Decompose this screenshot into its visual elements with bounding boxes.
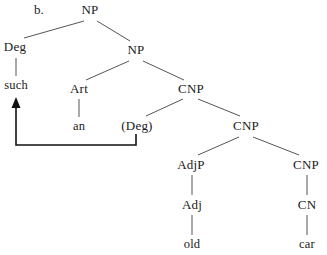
tree-node-deg: Deg xyxy=(4,40,26,53)
tree-node-cnp-1: CNP xyxy=(178,82,204,95)
tree-node-np-2: NP xyxy=(127,43,144,56)
branch-cnp-2-to-adjp xyxy=(198,137,239,155)
tree-node-deg-trace: (Deg) xyxy=(121,119,152,132)
branch-np-2-to-cnp-1 xyxy=(143,61,184,80)
movement-arrowhead-icon xyxy=(12,97,21,108)
tree-branches-svg xyxy=(0,0,327,255)
tree-node-adjp: AdjP xyxy=(177,158,205,171)
branch-lines-group xyxy=(16,21,307,235)
branch-cnp-2-to-cnp-3 xyxy=(253,137,299,155)
tree-node-cnp-3: CNP xyxy=(293,158,319,171)
figure-letter-label: b. xyxy=(34,3,44,16)
tree-node-such: such xyxy=(4,79,28,92)
syntax-tree-figure: b. NPDegNPsuchArtCNPan(Deg)CNPAdjPCNPAdj… xyxy=(0,0,327,255)
branch-np-2-to-art xyxy=(86,61,129,80)
branch-cnp-1-to-deg-trace xyxy=(146,99,183,116)
tree-node-old: old xyxy=(184,238,201,251)
branch-cnp-1-to-cnp-2 xyxy=(198,99,240,116)
tree-node-adj: Adj xyxy=(182,198,202,211)
tree-node-art: Art xyxy=(70,82,88,95)
tree-node-car: car xyxy=(299,238,315,251)
tree-node-an: an xyxy=(73,120,85,133)
tree-node-cnp-2: CNP xyxy=(233,119,259,132)
tree-node-np-top: NP xyxy=(81,3,98,16)
branch-np-top-to-deg xyxy=(24,21,84,38)
tree-node-cn: CN xyxy=(298,198,316,211)
branch-np-top-to-np-2 xyxy=(97,21,130,41)
